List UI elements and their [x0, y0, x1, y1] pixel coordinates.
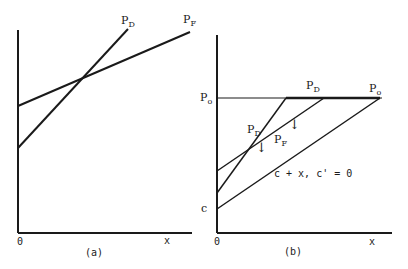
panel-b-pf-mid-label: PF: [274, 134, 287, 148]
panel-b-x-label: x: [369, 237, 375, 247]
panel-b-pd-mid-label: PD: [247, 124, 261, 138]
diagram-canvas: [0, 0, 408, 269]
panel-a-x-label: x: [164, 236, 170, 246]
down-arrow-icon: ↓: [256, 141, 267, 154]
panel-a-pf-line: [18, 32, 190, 106]
panel-b-pd-top-label: PD: [306, 80, 320, 94]
panel-b-caption: (b): [284, 247, 302, 257]
panel-b-po-right-label: Po: [369, 83, 381, 97]
panel-b-cost-line-label: c + x, c' = 0: [274, 169, 352, 179]
panel-a-caption: (a): [85, 248, 103, 258]
panel-b-origin-label: 0: [214, 237, 220, 247]
down-arrow-icon: ↓: [289, 118, 300, 131]
panel-a-plot: [18, 29, 192, 233]
panel-b-plot: [217, 35, 392, 233]
panel-a-origin-label: 0: [17, 237, 23, 247]
panel-a-pd-label: PD: [121, 15, 135, 29]
panel-b-po-axis-label: Po: [200, 92, 212, 106]
panel-a-pf-label: PF: [183, 14, 196, 28]
panel-a-pd-line: [18, 29, 128, 148]
panel-b-c-axis-label: c: [201, 203, 207, 214]
panel-b-pf-line: [217, 98, 324, 171]
